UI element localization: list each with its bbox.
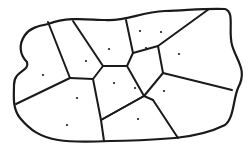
site-point	[137, 118, 139, 120]
cell-edge	[16, 78, 70, 104]
site-point	[163, 90, 165, 92]
cell-edge	[70, 78, 93, 79]
site-point	[145, 47, 147, 49]
site-point	[76, 97, 78, 99]
site-point	[139, 30, 141, 32]
cell-edge	[93, 79, 101, 120]
cell-edge	[127, 66, 144, 96]
cell-edge	[48, 22, 70, 78]
cell-edge	[153, 100, 178, 138]
cell-edge	[73, 21, 103, 66]
cell-edges	[16, 9, 232, 141]
site-point	[42, 74, 44, 76]
voronoi-diagram	[0, 0, 250, 155]
cell-edge	[144, 73, 163, 96]
site-point	[134, 87, 136, 89]
cell-edge	[158, 46, 163, 73]
cell-edge	[126, 20, 133, 53]
cell-edge	[101, 96, 144, 120]
site-point	[178, 53, 180, 55]
cell-edge	[127, 53, 133, 66]
site-point	[113, 82, 115, 84]
cell-edge	[144, 96, 153, 100]
site-point	[66, 124, 68, 126]
cell-edge	[93, 66, 103, 79]
site-point	[108, 48, 110, 50]
site-point	[85, 60, 87, 62]
site-point	[160, 31, 162, 33]
cell-edge	[158, 9, 209, 46]
cell-edge	[163, 73, 232, 90]
cell-edge	[101, 120, 104, 141]
